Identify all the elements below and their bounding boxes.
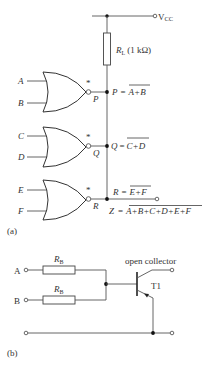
expr-q: Q=C+D — [111, 141, 146, 151]
input-e-label: E — [17, 185, 24, 195]
vcc-label: VCC — [158, 12, 173, 22]
rb-label-a: RB — [53, 254, 64, 265]
t1-label: T1 — [151, 281, 161, 291]
transistor-t1 — [137, 268, 174, 333]
nor-gate-1 — [27, 72, 109, 112]
circuit-diagram: VCC RL(1 kΩ) A B * P P=A+B C D * Q Q=C+D — [0, 0, 214, 366]
input-a-label: A — [17, 76, 24, 86]
asterisk-marker: * — [86, 132, 91, 142]
open-collector-label: open collector — [125, 256, 176, 266]
asterisk-marker: * — [86, 78, 91, 88]
resistor-rb-b — [43, 296, 75, 304]
input-d-label: D — [17, 152, 25, 162]
load-resistor — [104, 33, 111, 65]
expr-r: R=E+F — [112, 187, 147, 197]
node-r-label: R — [92, 201, 99, 211]
asterisk-marker: * — [86, 185, 91, 195]
nor-gate-2 — [27, 127, 109, 167]
node-q-label: Q — [93, 148, 100, 158]
expr-z: Z=A+B+C+D+E+F — [109, 206, 191, 216]
resistor-rb-a — [43, 266, 75, 274]
input-b-label-b: B — [14, 296, 20, 306]
input-c-label: C — [18, 131, 25, 141]
input-b-label: B — [18, 98, 24, 108]
expr-p: P=A+B — [111, 87, 146, 97]
input-f-label: F — [17, 206, 24, 216]
caption-b: (b) — [7, 348, 18, 358]
vcc-terminal — [153, 14, 157, 18]
caption-a: (a) — [7, 226, 17, 236]
rb-label-b: RB — [53, 284, 64, 295]
node-p-label: P — [92, 94, 99, 104]
input-a-label-b: A — [14, 266, 21, 276]
load-resistor-label: RL(1 kΩ) — [115, 45, 151, 56]
